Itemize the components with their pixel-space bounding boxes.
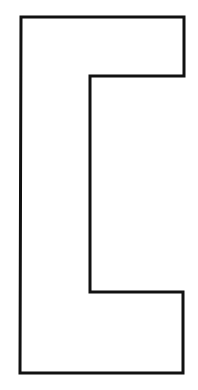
bracket-outline-shape <box>20 17 184 373</box>
bracket-shape-canvas <box>0 0 198 390</box>
